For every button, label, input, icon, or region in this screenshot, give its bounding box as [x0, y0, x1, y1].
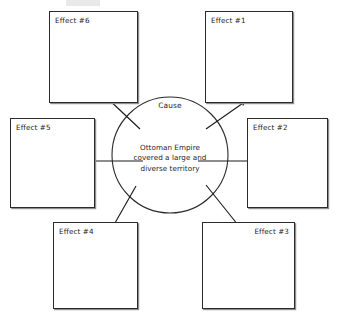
- effect-label-4: Effect #4: [59, 228, 94, 235]
- effect-label-3: Effect #3: [254, 228, 289, 235]
- cause-text-line-3: diverse territory: [118, 164, 222, 174]
- effect-box-4[interactable]: Effect #4: [53, 222, 138, 309]
- cause-text: Ottoman Empire covered a large and diver…: [118, 143, 222, 174]
- effect-label-1: Effect #1: [211, 17, 246, 24]
- effect-label-2: Effect #2: [253, 124, 288, 131]
- cause-title: Cause: [110, 101, 230, 110]
- effect-box-1[interactable]: Effect #1: [205, 11, 293, 103]
- effect-box-2[interactable]: Effect #2: [247, 118, 328, 208]
- cause-text-line-2: covered a large and: [118, 153, 222, 163]
- cause-text-line-1: Ottoman Empire: [118, 143, 222, 153]
- effect-label-5: Effect #5: [16, 124, 51, 131]
- diagram-canvas: Effect #6 Effect #1 Effect #5 Effect #2 …: [0, 0, 343, 317]
- effect-label-6: Effect #6: [55, 17, 90, 24]
- effect-box-3[interactable]: Effect #3: [202, 222, 295, 309]
- effect-box-6[interactable]: Effect #6: [49, 11, 138, 103]
- effect-box-5[interactable]: Effect #5: [10, 118, 95, 208]
